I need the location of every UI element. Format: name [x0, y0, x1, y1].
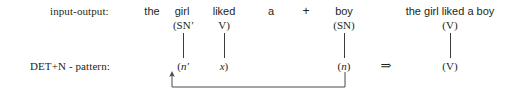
unification-bracket-path — [172, 72, 345, 87]
row-label-input-output: input-output: — [50, 5, 109, 17]
category-v-result-prefix: (V — [442, 19, 454, 31]
pattern-n-prime: (n′ — [177, 60, 189, 72]
category-v-open-prefix: V — [218, 19, 226, 31]
row-label-det-n-pattern: DET+N - pattern: — [30, 60, 110, 72]
category-sn-prefix: (SN — [333, 19, 351, 31]
category-sn-prime-mark: ′ — [191, 19, 193, 31]
token-boy: boy — [335, 5, 353, 17]
unification-arrowhead-icon — [169, 71, 175, 77]
category-v-open: V) — [218, 19, 230, 31]
category-v-open-suffix: ) — [226, 19, 230, 31]
token-liked: liked — [213, 5, 236, 17]
pattern-n-variable: (n) — [338, 60, 351, 72]
pattern-x-variable: x) — [220, 60, 229, 72]
token-a: a — [268, 5, 274, 17]
token-girl: girl — [175, 5, 190, 17]
pattern-x-close: ) — [225, 60, 229, 72]
implication-arrow-icon: ⇒ — [381, 58, 392, 74]
result-phrase: the girl liked a boy — [406, 5, 495, 17]
pattern-v-output-label: V — [446, 60, 454, 72]
category-v-result: (V) — [442, 19, 457, 31]
pattern-v-output: (V) — [442, 60, 457, 72]
category-sn: (SN) — [333, 19, 354, 31]
category-sn-prime: (SN′ — [173, 19, 193, 31]
category-sn-prime-prefix: (SN — [173, 19, 191, 31]
category-sn-suffix: ) — [351, 19, 355, 31]
category-v-result-suffix: ) — [454, 19, 458, 31]
plus-operator: + — [302, 4, 309, 18]
pattern-n-prime-mark: ′ — [186, 60, 188, 72]
token-the: the — [144, 5, 159, 17]
linguistic-derivation-figure: input-output: DET+N - pattern: the girl … — [0, 0, 518, 94]
pattern-v-output-close: ) — [454, 60, 458, 72]
pattern-n-close: ) — [347, 60, 351, 72]
